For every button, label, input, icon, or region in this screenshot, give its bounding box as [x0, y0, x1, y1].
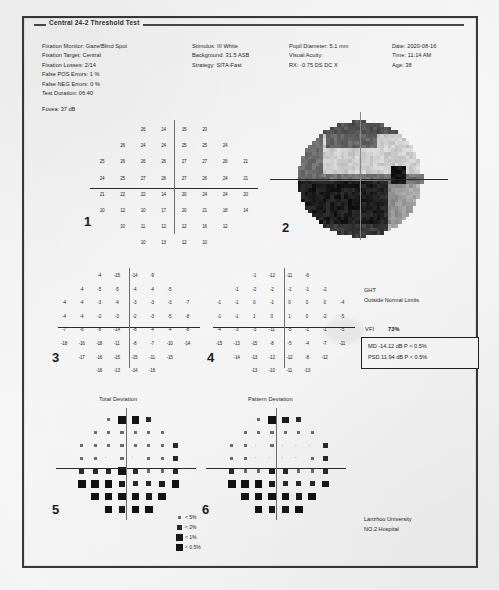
grid-value: 12: [220, 224, 231, 229]
fixation-monitor: Fixation Monitor: Gaze/Blind Spot: [42, 42, 127, 51]
probability-legend: < 5% < 2% < 1% < 0.5%: [176, 513, 246, 555]
grid-value: -6: [94, 327, 105, 332]
grid-value: -7: [59, 327, 70, 332]
grid-value: -9: [147, 273, 158, 278]
legend-text-p1: < 1%: [185, 534, 197, 540]
grid-value: -1: [214, 314, 225, 319]
legend-swatch-p2: [176, 524, 182, 530]
legend-text-p05: < 0.5%: [185, 544, 201, 550]
grid-value: 26: [138, 159, 149, 164]
grid-value: -16: [94, 355, 105, 360]
grid-value: 26: [117, 159, 128, 164]
grid-value: -1: [249, 273, 260, 278]
grid-value: 24: [220, 192, 231, 197]
grid-value: -4: [302, 341, 313, 346]
grid-value: -18: [59, 341, 70, 346]
grid-value: -7: [319, 341, 330, 346]
grid-value: -15: [164, 355, 175, 360]
pupil-diameter: Pupil Diameter: 5.1 mm: [289, 42, 349, 51]
strategy: Strategy: SITA-Fast: [192, 61, 249, 70]
panel-grayscale-map: 2: [276, 116, 441, 240]
grid-value: 27: [199, 159, 210, 164]
grid-value: 0: [302, 314, 313, 319]
grid-value: -14: [129, 273, 140, 278]
grid-value: 0: [319, 300, 330, 305]
grid-value: -2: [319, 287, 330, 292]
grid-value: -3: [147, 314, 158, 319]
grid-value: -4: [214, 327, 225, 332]
indices-box: MD -14.12 dB P < 0.5% PSD 11.94 dB P < 0…: [361, 337, 479, 369]
patient-age: Age: 38: [392, 61, 436, 70]
hospital-footer: Lanzhou University NO.2 Hospital: [364, 515, 412, 534]
grid-value: -4: [94, 273, 105, 278]
grid-value: -2: [129, 314, 140, 319]
grid-value: -4: [337, 300, 348, 305]
grid-value: -1: [266, 300, 277, 305]
grid-value: 1: [249, 314, 260, 319]
legend-symbol: [178, 516, 181, 519]
grid-value: -8: [182, 327, 193, 332]
grid-value: 12: [179, 224, 190, 229]
grid-value: 0: [302, 300, 313, 305]
grid-value: -13: [249, 355, 260, 360]
panel-total-deviation-numeric: -4-15-14-9-4-5-5-4-4-5-4-4-3-4-3-3-3-7-4…: [54, 266, 204, 370]
legend-swatch-p1: [176, 534, 182, 540]
grid-value: 10: [138, 240, 149, 245]
grid-value: -11: [266, 327, 277, 332]
footer-line-1: Lanzhou University: [364, 515, 412, 525]
grid-value: -2: [94, 314, 105, 319]
p6-vertical-axis: [276, 408, 277, 520]
test-date: Date: 2020-08-16: [392, 42, 436, 51]
grid-value: -8: [129, 341, 140, 346]
grid-value: -13: [111, 368, 122, 373]
visual-acuity: Visual Acuity:: [289, 51, 349, 60]
panel-threshold-sensitivity: 2614152026242425252425262626272726212425…: [86, 118, 261, 236]
grid-value: -4: [164, 327, 175, 332]
footer-line-2: NO.2 Hospital: [364, 525, 412, 535]
ght-label: GHT: [364, 286, 419, 296]
grid-value: -12: [266, 273, 277, 278]
grid-value: -4: [129, 287, 140, 292]
grid-value: -10: [266, 368, 277, 373]
grid-value: -13: [231, 341, 242, 346]
grid-value: 25: [199, 143, 210, 148]
background: Background: 31.5 ASB: [192, 51, 249, 60]
grid-value: 27: [138, 176, 149, 181]
psd-index: PSD 11.94 dB P < 0.5%: [368, 354, 427, 360]
grid-value: -5: [164, 314, 175, 319]
false-neg-errors: False NEG Errors: 0 %: [42, 80, 127, 89]
p3-number-grid: -4-15-14-9-4-5-5-4-4-5-4-4-3-4-3-3-3-7-4…: [54, 266, 204, 370]
legend-text-p2: < 2%: [185, 524, 197, 530]
grid-value: 1: [284, 314, 295, 319]
grid-value: 25: [117, 176, 128, 181]
grid-value: -8: [129, 327, 140, 332]
grid-value: 26: [138, 127, 149, 132]
grid-value: -14: [182, 341, 193, 346]
grid-value: -4: [111, 300, 122, 305]
grid-value: -2: [266, 287, 277, 292]
grid-value: 27: [179, 159, 190, 164]
grid-value: -11: [284, 368, 295, 373]
grid-value: 15: [179, 127, 190, 132]
report-sheet: Central 24-2 Threshold Test Fixation Mon…: [22, 16, 478, 568]
grid-value: -3: [231, 327, 242, 332]
panel-pattern-deviation-plot: ········ 6: [206, 410, 346, 520]
grid-value: -7: [182, 300, 193, 305]
visual-field-report-page: Central 24-2 Threshold Test Fixation Mon…: [0, 0, 499, 590]
grid-value: -11: [284, 273, 295, 278]
grid-value: -8: [182, 314, 193, 319]
grid-value: 26: [158, 176, 169, 181]
grid-value: -15: [111, 355, 122, 360]
header-column-patient: Date: 2020-08-16 Time: 11:14 AM Age: 38: [392, 42, 436, 70]
grid-value: 26: [220, 159, 231, 164]
grid-value: 13: [158, 240, 169, 245]
grid-value: -16: [76, 341, 87, 346]
test-time: Time: 11:14 AM: [392, 51, 436, 60]
grid-value: -11: [147, 355, 158, 360]
grid-value: 10: [97, 208, 108, 213]
grid-value: 0: [249, 300, 260, 305]
p2-axes: [276, 116, 441, 240]
grid-value: -1: [302, 287, 313, 292]
grid-value: -2: [319, 314, 330, 319]
legend-text-p5: < 5%: [185, 514, 197, 520]
